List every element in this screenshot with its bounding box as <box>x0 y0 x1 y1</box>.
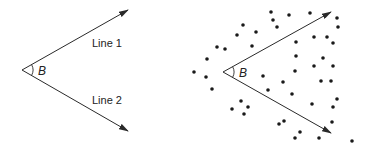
line-2 <box>223 72 331 133</box>
dot <box>275 25 279 29</box>
dot <box>331 41 335 45</box>
dot <box>230 107 234 111</box>
dot <box>192 70 196 74</box>
dot <box>282 119 286 123</box>
dot <box>308 11 312 15</box>
dot <box>325 35 329 39</box>
dot <box>235 33 239 37</box>
dot <box>319 79 323 83</box>
dot <box>298 130 302 134</box>
dot <box>215 45 219 49</box>
dot <box>242 112 246 116</box>
dot <box>310 102 314 106</box>
dot <box>330 120 334 124</box>
dot <box>335 16 339 20</box>
scatter-dots <box>192 10 354 143</box>
dot <box>250 44 254 48</box>
dot <box>321 56 325 60</box>
dot <box>271 18 275 22</box>
right-panel: B <box>192 10 354 143</box>
dot <box>293 69 297 73</box>
dot <box>317 136 321 140</box>
dot <box>266 88 270 92</box>
line-1-label: Line 1 <box>92 37 122 49</box>
dot <box>312 35 316 39</box>
dot <box>331 64 335 68</box>
dot <box>277 122 281 126</box>
dot <box>269 10 273 14</box>
dot <box>223 47 227 51</box>
dot <box>239 99 243 103</box>
dot <box>331 105 335 109</box>
line-2-label: Line 2 <box>92 94 122 106</box>
dot <box>210 87 214 91</box>
angle-diagram: B Line 1 Line 2 B <box>0 0 368 150</box>
dot <box>293 136 297 140</box>
angle-label: B <box>239 66 247 80</box>
dot <box>205 57 209 61</box>
dot <box>312 64 316 68</box>
dot <box>290 92 294 96</box>
dot <box>294 54 298 58</box>
dot <box>287 13 291 17</box>
dot <box>241 23 245 27</box>
dot <box>281 80 285 84</box>
left-panel: B Line 1 Line 2 <box>22 10 128 131</box>
dot <box>336 25 340 29</box>
angle-arc <box>32 65 33 76</box>
dot <box>261 74 265 78</box>
dot <box>294 40 298 44</box>
dot <box>335 97 339 101</box>
dot <box>329 79 333 83</box>
dot <box>246 105 250 109</box>
angle-label: B <box>38 64 46 78</box>
line-1 <box>223 12 331 72</box>
dot <box>254 30 258 34</box>
angle-arc <box>233 67 234 78</box>
dot <box>350 139 354 143</box>
dot <box>204 75 208 79</box>
